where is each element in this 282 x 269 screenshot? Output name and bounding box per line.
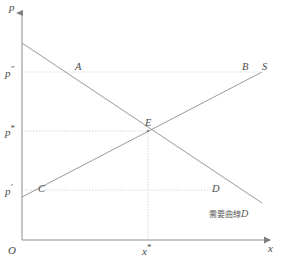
y-tick-p-star-mark: * [11, 123, 16, 133]
y-tick-p-double-prime: p″ [5, 65, 14, 79]
demand-curve-annotation-symbol: D [241, 208, 248, 219]
point-label-e: E [145, 118, 151, 129]
point-label-d: D [212, 184, 220, 195]
origin-label: O [8, 245, 16, 256]
point-label-c: C [38, 184, 45, 195]
x-tick-x-star: x* [142, 243, 151, 257]
demand-curve-annotation-text: 需要曲線 [209, 210, 241, 219]
demand-curve [22, 43, 262, 203]
y-tick-p-prime-mark: ′ [11, 182, 13, 192]
x-axis-label: x [268, 243, 273, 254]
equilibrium-point-marker [147, 130, 150, 133]
y-tick-p-prime: p′ [5, 183, 12, 197]
supply-curve-label: S [262, 62, 267, 73]
point-label-a: A [75, 62, 81, 73]
figure-canvas [0, 0, 282, 269]
point-label-b: B [242, 62, 248, 73]
y-axis-label: p [9, 2, 15, 13]
demand-curve-annotation: 需要曲線D [209, 209, 248, 219]
supply-curve [22, 72, 262, 197]
y-tick-p-double-prime-mark: ″ [11, 64, 15, 74]
y-tick-p-star: p* [5, 124, 15, 138]
x-tick-x-star-mark: * [147, 242, 152, 252]
supply-demand-figure: p x O p″ p* p′ x* A B C D E S 需要曲線D [0, 0, 282, 269]
